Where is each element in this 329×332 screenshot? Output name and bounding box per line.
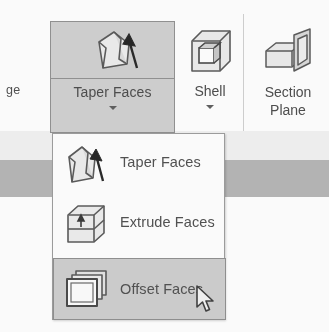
ribbon-button-label: Taper Faces <box>51 84 174 100</box>
menu-item-label: Extrude Faces <box>120 214 215 230</box>
split-button-divider <box>51 78 174 79</box>
offset-faces-icon <box>62 267 114 315</box>
ribbon-button-shell[interactable]: Shell <box>180 21 240 133</box>
menu-item-offset-faces[interactable]: Offset Faces <box>53 258 226 320</box>
menu-item-extrude-faces[interactable]: Extrude Faces <box>54 195 225 255</box>
ribbon-button-section-plane[interactable]: Section Plane <box>250 21 326 133</box>
taper-faces-icon <box>62 141 114 189</box>
section-plane-icon <box>250 25 326 81</box>
ribbon-separator <box>243 14 244 131</box>
ribbon-button-label: Shell <box>180 83 240 99</box>
shell-cube-icon <box>180 23 240 81</box>
screenshot-root: ge Taper Faces <box>0 0 329 332</box>
menu-item-label: Taper Faces <box>120 154 201 170</box>
menu-item-taper-faces[interactable]: Taper Faces <box>54 135 225 195</box>
menu-item-label: Offset Faces <box>120 281 203 297</box>
ribbon-button-label: Section Plane <box>250 83 326 119</box>
chevron-down-icon[interactable] <box>206 105 214 109</box>
section-plane-label-line1: Section <box>265 84 312 100</box>
section-plane-label-line2: Plane <box>250 101 326 119</box>
ribbon-panel: ge Taper Faces <box>0 0 329 131</box>
ribbon-button-taper-faces[interactable]: Taper Faces <box>50 21 175 133</box>
chevron-down-icon[interactable] <box>109 106 117 110</box>
taper-faces-dropdown-menu: Taper Faces <box>52 133 225 320</box>
extrude-faces-icon <box>62 201 114 249</box>
taper-faces-icon <box>51 22 174 78</box>
ribbon-truncated-label: ge <box>6 83 20 97</box>
